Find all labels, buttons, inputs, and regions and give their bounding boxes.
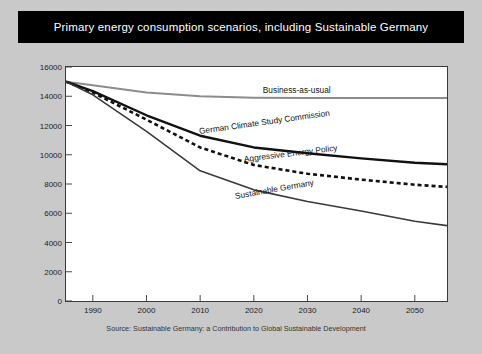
x-axis-tick-label: 2040 xyxy=(352,306,370,315)
page-title: Primary energy consumption scenarios, in… xyxy=(54,21,428,33)
series-annotation-label: Business-as-usual xyxy=(263,85,331,95)
x-axis-tick-label: 2030 xyxy=(299,306,317,315)
x-axis-tick-label: 2000 xyxy=(138,306,156,315)
x-axis-tick-label: 1990 xyxy=(84,306,102,315)
x-axis-tick-label: 2020 xyxy=(245,306,263,315)
source-caption: Source: Sustainable Germany: a Contribut… xyxy=(18,324,454,333)
slide-title-bar: Primary energy consumption scenarios, in… xyxy=(18,11,464,43)
chart-container: 0200040006000800010000120001400016000 19… xyxy=(18,52,464,340)
slide-root: Primary energy consumption scenarios, in… xyxy=(0,0,482,354)
chart-plot xyxy=(66,67,447,301)
x-axis-tick-label: 2010 xyxy=(191,306,209,315)
x-axis-tick-label: 2050 xyxy=(406,306,424,315)
series-line xyxy=(66,82,447,98)
plot-frame xyxy=(65,66,448,302)
